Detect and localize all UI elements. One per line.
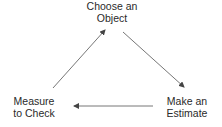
cycle-diagram: Choose an Object Make an Estimate Measur…: [0, 0, 222, 127]
node-label-line: to Check: [0, 107, 68, 119]
node-label-line: Choose an: [72, 0, 152, 12]
arrow-top-to-right: [123, 32, 184, 87]
arrow-left-to-top: [53, 30, 105, 88]
node-measure-to-check: Measure to Check: [0, 95, 68, 119]
node-label-line: Make an: [154, 95, 220, 107]
node-label-line: Estimate: [154, 107, 220, 119]
node-choose-object: Choose an Object: [72, 0, 152, 24]
node-make-estimate: Make an Estimate: [154, 95, 220, 119]
node-label-line: Measure: [0, 95, 68, 107]
node-label-line: Object: [72, 12, 152, 24]
